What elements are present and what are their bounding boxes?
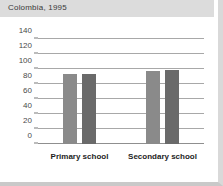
y-tick-label: 80 (23, 71, 32, 80)
y-tick-mark (34, 128, 38, 129)
y-tick-label: 120 (19, 41, 32, 50)
gridline (38, 68, 204, 69)
y-tick-mark (34, 38, 38, 39)
x-axis-group-label: Secondary school (128, 152, 197, 161)
gridline (38, 53, 204, 54)
y-tick-mark (34, 113, 38, 114)
chart-title-bar: Colombia, 1995 (0, 0, 214, 17)
y-tick-label: 100 (19, 56, 32, 65)
y-tick-mark (34, 83, 38, 84)
plot-frame: 020406080100120140Primary schoolSecondar… (6, 22, 212, 174)
y-tick-label: 20 (23, 116, 32, 125)
y-tick-mark (34, 143, 38, 144)
x-axis-group-label: Primary school (51, 152, 109, 161)
bar (82, 74, 96, 145)
chart-figure: Colombia, 1995 020406080100120140Primary… (0, 0, 223, 186)
y-tick-mark (34, 68, 38, 69)
y-tick-mark (34, 98, 38, 99)
bar (165, 70, 179, 144)
bar (146, 71, 160, 145)
chart-title: Colombia, 1995 (8, 3, 67, 12)
bar (63, 74, 77, 144)
gridline (38, 38, 204, 39)
y-tick-label: 40 (23, 101, 32, 110)
plot-area: 020406080100120140Primary schoolSecondar… (38, 30, 204, 144)
y-tick-label: 140 (19, 26, 32, 35)
y-tick-label: 0 (28, 131, 32, 140)
y-tick-label: 60 (23, 86, 32, 95)
y-tick-mark (34, 53, 38, 54)
